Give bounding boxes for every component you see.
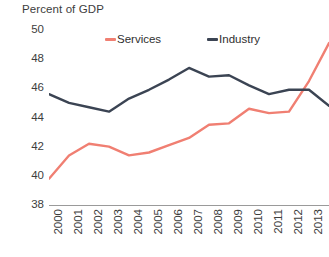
x-axis-tick-label: 2007	[193, 209, 205, 235]
y-axis-tick-label: 48	[18, 53, 44, 65]
y-axis: 50484644424038	[18, 0, 44, 257]
y-axis-tick-label: 46	[18, 83, 44, 95]
x-axis-tick-label: 2000	[53, 209, 65, 235]
x-axis-tick-label: 2002	[93, 209, 105, 235]
x-axis-tick-label: 2010	[253, 209, 265, 235]
x-axis-tick-label: 2004	[133, 209, 145, 235]
x-axis-tick-label: 2008	[213, 209, 225, 235]
x-axis-tick-label: 2005	[153, 209, 165, 235]
legend-item-services[interactable]: Services	[105, 33, 161, 45]
x-axis-tick-label: 2012	[293, 209, 305, 235]
legend-swatch-icon	[207, 38, 218, 41]
x-axis-line	[49, 205, 329, 206]
plot-area	[49, 30, 329, 205]
series-line-industry	[49, 68, 329, 112]
x-axis-tick-label: 2011	[273, 209, 285, 234]
x-axis-tick-label: 2003	[113, 209, 125, 235]
legend-label: Industry	[219, 33, 260, 45]
x-axis: 2000200120022003200420052006200720082009…	[49, 207, 329, 257]
legend-label: Services	[117, 33, 161, 45]
legend-swatch-icon	[105, 38, 116, 41]
chart-legend: ServicesIndustry	[105, 33, 260, 45]
series-line-services	[49, 43, 329, 179]
y-axis-tick-label: 50	[18, 24, 44, 36]
y-axis-tick-label: 40	[18, 170, 44, 182]
x-axis-tick-label: 2009	[233, 209, 245, 235]
x-axis-tick-label: 2006	[173, 209, 185, 235]
x-axis-tick-label: 2013	[313, 209, 325, 235]
y-axis-tick-label: 38	[18, 199, 44, 211]
legend-item-industry[interactable]: Industry	[207, 33, 260, 45]
chart-plot-svg	[49, 30, 329, 205]
y-axis-tick-label: 42	[18, 141, 44, 153]
chart-container: Percent of GDP 50484644424038 ServicesIn…	[0, 0, 329, 257]
x-axis-tick-label: 2001	[73, 209, 85, 235]
y-axis-tick-label: 44	[18, 112, 44, 124]
